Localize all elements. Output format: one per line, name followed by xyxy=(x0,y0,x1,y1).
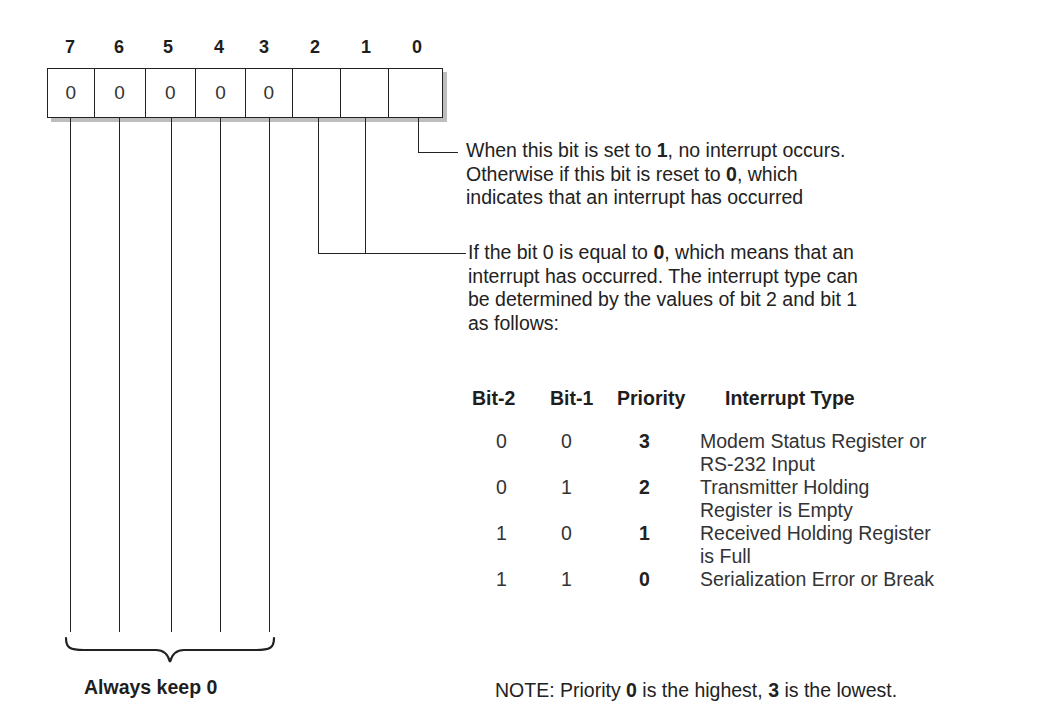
table-header-interrupt-type: Interrupt Type xyxy=(725,386,855,410)
bit-label-4: 4 xyxy=(204,36,234,58)
register-cell-bit5: 0 xyxy=(146,69,197,117)
bit-label-1: 1 xyxy=(351,36,381,58)
row3-bit2: 1 xyxy=(496,522,507,545)
row2-priority: 2 xyxy=(639,476,650,499)
priority-note: NOTE: Priority 0 is the highest, 3 is th… xyxy=(495,678,897,702)
register-cell-bit4: 0 xyxy=(196,69,246,117)
bit21-desc-line-1: If the bit 0 is equal to 0, which means … xyxy=(468,241,858,265)
row4-priority: 0 xyxy=(639,568,650,591)
leader-line-bit6 xyxy=(119,118,120,632)
leader-connector-bit2-bit1 xyxy=(318,253,466,254)
bit0-desc-line-1: When this bit is set to 1, no interrupt … xyxy=(466,139,845,163)
leader-connector-bit0 xyxy=(418,152,458,153)
row3-priority: 1 xyxy=(639,522,650,545)
register-cell-bit6: 0 xyxy=(95,69,146,117)
register-cell-bit7: 0 xyxy=(48,69,95,117)
row3-type-line1: Received Holding Register xyxy=(700,522,931,545)
table-header-bit1: Bit-1 xyxy=(550,386,593,410)
row3-bit1: 0 xyxy=(561,522,572,545)
leader-line-bit5 xyxy=(171,118,172,632)
bit-label-2: 2 xyxy=(300,36,330,58)
bit-label-0: 0 xyxy=(402,36,432,58)
bit21-desc-line-4: as follows: xyxy=(468,312,858,336)
row2-type-line2: Register is Empty xyxy=(700,499,853,522)
register-cell-bit0 xyxy=(389,69,442,117)
row2-type-line1: Transmitter Holding xyxy=(700,476,869,499)
leader-line-bit7 xyxy=(70,118,71,632)
row1-bit2: 0 xyxy=(496,430,507,453)
table-header-bit2: Bit-2 xyxy=(472,386,515,410)
row3-type-line2: is Full xyxy=(700,545,751,568)
bit21-description: If the bit 0 is equal to 0, which means … xyxy=(468,241,858,335)
bit-label-7: 7 xyxy=(55,36,85,58)
bit-label-5: 5 xyxy=(153,36,183,58)
bit21-desc-line-2: interrupt has occurred. The interrupt ty… xyxy=(468,265,858,289)
register-cell-bit2 xyxy=(293,69,341,117)
row1-bit1: 0 xyxy=(561,430,572,453)
register-cell-bit1 xyxy=(341,69,390,117)
bit0-description: When this bit is set to 1, no interrupt … xyxy=(466,139,845,210)
row4-type-line1: Serialization Error or Break xyxy=(700,568,934,591)
leader-line-bit2 xyxy=(318,118,319,253)
always-keep-zero-label: Always keep 0 xyxy=(84,675,217,699)
row4-bit1: 1 xyxy=(561,568,572,591)
bit21-desc-line-3: be determined by the values of bit 2 and… xyxy=(468,288,858,312)
row4-bit2: 1 xyxy=(496,568,507,591)
row2-bit2: 0 xyxy=(496,476,507,499)
leader-line-bit0 xyxy=(418,118,419,152)
register-cell-bit3: 0 xyxy=(246,69,293,117)
register-box: 0 0 0 0 0 xyxy=(47,68,443,118)
row2-bit1: 1 xyxy=(561,476,572,499)
bit0-desc-line-3: indicates that an interrupt has occurred xyxy=(466,186,845,210)
bit-label-3: 3 xyxy=(249,36,279,58)
row1-type-line2: RS-232 Input xyxy=(700,453,815,476)
leader-line-bit1 xyxy=(365,118,366,253)
row1-priority: 3 xyxy=(639,430,650,453)
bit0-desc-line-2: Otherwise if this bit is reset to 0, whi… xyxy=(466,163,845,187)
table-header-priority: Priority xyxy=(617,386,685,410)
curly-brace-icon xyxy=(60,632,280,672)
leader-line-bit3 xyxy=(269,118,270,632)
row1-type-line1: Modem Status Register or xyxy=(700,430,927,453)
leader-line-bit4 xyxy=(220,118,221,632)
bit-label-6: 6 xyxy=(104,36,134,58)
